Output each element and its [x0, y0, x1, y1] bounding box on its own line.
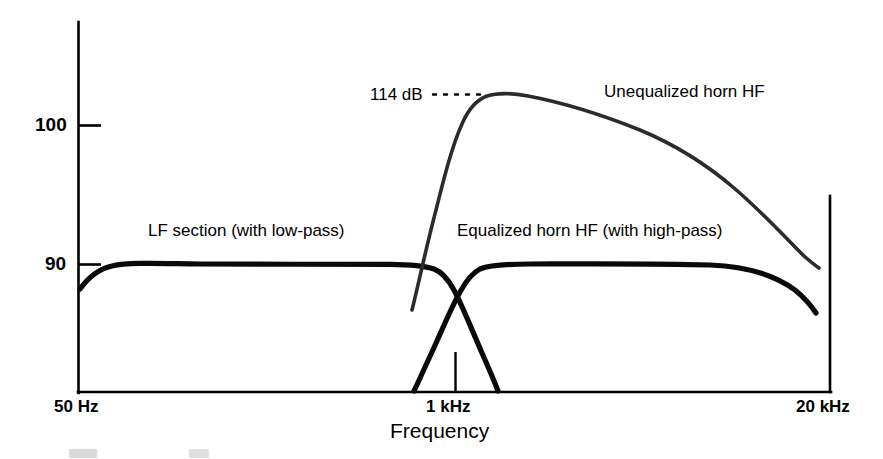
x-tick-label-20khz: 20 kHz	[796, 398, 850, 415]
y-tick-label-90: 90	[45, 254, 66, 273]
figure-container: Lp, 1 watt at 1 meter 100 90 50 Hz 1 kHz…	[0, 0, 883, 459]
y-axis-ticks	[79, 126, 101, 265]
curve-lf-section	[80, 263, 498, 391]
curve-equalized-horn-hf	[414, 264, 816, 391]
annotation-equalized-horn-hf: Equalized horn HF (with high-pass)	[457, 222, 723, 239]
axis-lines	[78, 22, 831, 393]
annotation-unequalized-horn-hf: Unequalized horn HF	[604, 83, 765, 100]
y-tick-label-100: 100	[35, 115, 67, 134]
x-tick-label-50hz: 50 Hz	[54, 398, 98, 415]
caption-fragment	[8, 449, 238, 458]
annotation-114db: 114 dB	[370, 86, 423, 103]
x-tick-label-1khz: 1 kHz	[426, 398, 470, 415]
annotation-lf-section: LF section (with low-pass)	[148, 222, 345, 239]
chart-canvas	[0, 0, 883, 459]
x-axis-title: Frequency	[390, 420, 489, 441]
